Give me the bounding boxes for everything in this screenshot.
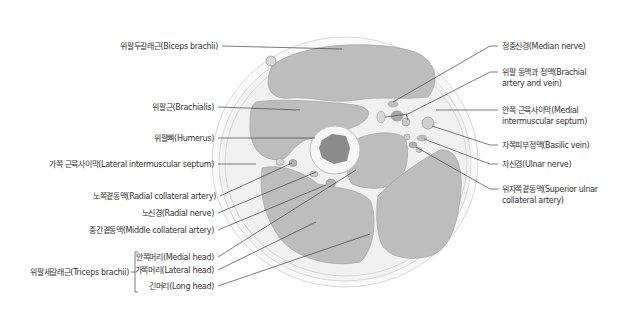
label-sup-ulnar-line2: collateral artery) — [502, 195, 598, 206]
radial-collateral-artery-shape — [289, 160, 297, 167]
label-median-nerve-text: 정중신경(Median nerve) — [502, 42, 585, 51]
label-brachial-line2: artery and vein) — [502, 78, 586, 89]
label-superior-ulnar-collateral-artery: 위자쪽곁동맥(Superior ulnar collateral artery) — [502, 184, 598, 206]
label-medial-septum-line1: 안쪽 근육사이막(Medial — [502, 105, 587, 116]
label-humerus: 위팔뼈(Humerus) — [154, 133, 214, 144]
label-lateral-head: 가쪽머리(Lateral head) — [135, 265, 214, 276]
label-radial-nerve: 노신경(Radial nerve) — [142, 208, 214, 219]
label-brachialis: 위팔근(Brachialis) — [152, 102, 214, 113]
label-medial-head: 안쪽머리(Medial head) — [136, 252, 214, 263]
label-long-head: 긴머리(Long head) — [149, 281, 214, 292]
basilic-vein-shape — [422, 117, 434, 129]
sup-ulnar-artery-shape — [409, 142, 417, 148]
label-basilic-vein-text: 자쪽피부정맥(Basilic vein) — [502, 141, 589, 150]
cephalic-vein-shape — [266, 56, 276, 66]
label-sup-ulnar-line1: 위자쪽곁동맥(Superior ulnar — [502, 184, 598, 195]
label-brachial-artery-vein: 위팔 동맥과 정맥(Brachial artery and vein) — [502, 67, 586, 89]
medial-vessel-small — [404, 134, 410, 140]
label-median-nerve: 정중신경(Median nerve) — [502, 41, 585, 52]
label-lateral-intermuscular-septum: 가쪽 근육사이막(Lateral intermuscular septum) — [49, 159, 214, 170]
radial-vessel-shape-1 — [276, 159, 284, 166]
brachial-vein-shape-1 — [377, 111, 385, 123]
label-biceps-brachii: 위팔두갈래근(Biceps brachii) — [120, 41, 218, 52]
label-middle-collateral-artery: 중간곁동맥(Middle collateral artery) — [89, 225, 214, 236]
label-radial-collateral-artery: 노쪽곁동맥(Radial collateral artery) — [93, 191, 216, 202]
label-triceps-brachii: 위팔세갈래근(Triceps brachii) — [30, 267, 129, 278]
label-brachial-line1: 위팔 동맥과 정맥(Brachial — [502, 67, 586, 78]
brachial-vein-shape-2 — [402, 118, 410, 126]
label-medial-septum-line2: intermuscular septum) — [502, 116, 587, 127]
ulnar-nerve-shape — [417, 135, 427, 141]
label-ulnar-nerve: 자신경(Ulnar nerve) — [502, 159, 571, 170]
label-medial-intermuscular-septum: 안쪽 근육사이막(Medial intermuscular septum) — [502, 105, 587, 127]
label-basilic-vein: 자쪽피부정맥(Basilic vein) — [502, 140, 589, 151]
label-ulnar-nerve-text: 자신경(Ulnar nerve) — [502, 160, 571, 169]
